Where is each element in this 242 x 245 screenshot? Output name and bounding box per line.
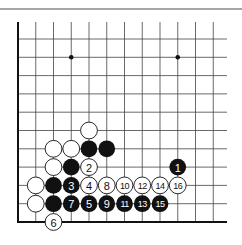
white-stone: 14: [152, 177, 169, 194]
move-number: 9: [104, 198, 110, 210]
white-stone: [45, 140, 62, 157]
move-number: 15: [156, 199, 165, 209]
white-stone-icon: [45, 140, 62, 157]
white-stone: 8: [98, 177, 115, 194]
white-stone: [27, 195, 44, 212]
black-stone-icon: [45, 195, 62, 212]
move-number: 5: [86, 198, 92, 210]
black-stone-icon: [63, 159, 80, 176]
move-number: 12: [138, 181, 147, 191]
move-number: 11: [120, 199, 129, 209]
white-stone-icon: [45, 159, 62, 176]
black-stone: 11: [116, 195, 133, 212]
white-stone-icon: [27, 177, 44, 194]
white-stone: [63, 140, 80, 157]
move-number: 2: [86, 162, 92, 174]
move-number: 4: [86, 180, 92, 192]
star-point-icon: [175, 55, 180, 60]
star-point-icon: [69, 55, 74, 60]
white-stone-icon: [63, 140, 80, 157]
move-number: 7: [68, 198, 74, 210]
move-number: 6: [50, 217, 56, 229]
white-stone: 4: [81, 177, 98, 194]
move-number: 1: [175, 162, 181, 174]
move-number: 16: [173, 181, 182, 191]
move-number: 14: [156, 181, 165, 191]
move-number: 8: [104, 180, 110, 192]
white-stone: 2: [81, 159, 98, 176]
white-stone-icon: [81, 122, 98, 139]
white-stone: [27, 177, 44, 194]
white-stone: 12: [134, 177, 151, 194]
black-stone: [45, 195, 62, 212]
black-stone: 15: [152, 195, 169, 212]
black-stone: 3: [63, 177, 80, 194]
white-stone-icon: [27, 195, 44, 212]
white-stone: 10: [116, 177, 133, 194]
black-stone: 1: [169, 159, 186, 176]
white-stone: 16: [169, 177, 186, 194]
black-stone: 7: [63, 195, 80, 212]
black-stone-icon: [81, 140, 98, 157]
black-stone: [98, 140, 115, 157]
move-number: 13: [138, 199, 147, 209]
black-stone: [45, 177, 62, 194]
black-stone-icon: [45, 177, 62, 194]
black-stone-icon: [98, 140, 115, 157]
black-stone: [63, 159, 80, 176]
black-stone: [81, 140, 98, 157]
move-number: 3: [68, 180, 74, 192]
black-stone: 13: [134, 195, 151, 212]
white-stone: [45, 159, 62, 176]
black-stone: 5: [81, 195, 98, 212]
white-stone: [81, 122, 98, 139]
black-stone: 9: [98, 195, 115, 212]
go-board: 21348101214167591113156: [0, 0, 242, 245]
move-number: 10: [120, 181, 129, 191]
white-stone: 6: [45, 214, 62, 231]
